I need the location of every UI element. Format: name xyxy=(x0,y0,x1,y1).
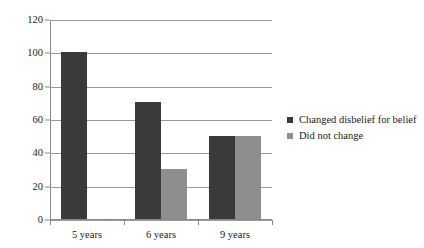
bar xyxy=(135,102,161,219)
bar-group xyxy=(198,19,272,219)
y-tick-label: 20 xyxy=(33,181,44,192)
legend-swatch-icon xyxy=(287,117,293,123)
plot-area: 020406080100120 5 years6 years9 years xyxy=(50,20,272,220)
x-tick-mark xyxy=(272,220,273,225)
x-tick-label: 5 years xyxy=(72,230,102,241)
y-tick-label: 40 xyxy=(33,148,44,159)
legend-item: Did not change xyxy=(287,128,422,144)
x-tick-mark xyxy=(124,220,125,225)
y-tick-label: 0 xyxy=(38,215,43,226)
y-tick-label: 80 xyxy=(33,81,44,92)
chart-legend: Changed disbelief for beliefDid not chan… xyxy=(287,112,422,144)
y-tick-label: 60 xyxy=(33,115,44,126)
x-tick-label: 6 years xyxy=(146,230,176,241)
chart-figure: 020406080100120 5 years6 years9 years Ch… xyxy=(0,0,424,248)
bar-group xyxy=(124,19,198,219)
legend-swatch-icon xyxy=(287,133,293,139)
legend-item: Changed disbelief for belief xyxy=(287,112,422,128)
y-tick-label: 100 xyxy=(27,48,43,59)
x-tick-mark xyxy=(50,220,51,225)
bar xyxy=(161,169,187,219)
x-tick-label: 9 years xyxy=(220,230,250,241)
y-tick-label: 120 xyxy=(27,15,43,26)
bar xyxy=(61,52,87,219)
bar xyxy=(235,136,261,219)
legend-label: Changed disbelief for belief xyxy=(299,115,417,126)
x-tick-mark xyxy=(198,220,199,225)
gridline xyxy=(50,220,272,221)
legend-label: Did not change xyxy=(299,131,363,142)
bar-group xyxy=(50,19,124,219)
bar xyxy=(209,136,235,219)
